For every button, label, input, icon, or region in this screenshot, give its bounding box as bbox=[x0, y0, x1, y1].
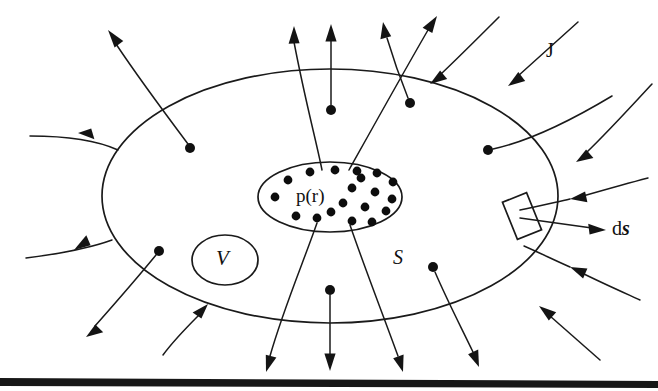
flux-line-out-10 bbox=[435, 272, 473, 352]
flux-source-dot-1 bbox=[185, 143, 195, 153]
flux-arrowhead-out-9 bbox=[324, 353, 335, 371]
flux-line-in-6 bbox=[583, 178, 648, 196]
flux-arrowhead-out-10 bbox=[468, 350, 479, 367]
flux-arrowhead-out-7 bbox=[380, 22, 391, 39]
flux-line-out-2 bbox=[349, 30, 428, 170]
surface-label: S bbox=[393, 247, 403, 267]
flux-arrowhead-out-6 bbox=[325, 24, 336, 42]
flux-line-out-8 bbox=[95, 255, 156, 326]
flux-line-out-1 bbox=[294, 42, 322, 170]
figure-container: J p(r) V S ds bbox=[0, 0, 658, 391]
surface-element-vector: s bbox=[622, 217, 630, 239]
flux-arrowhead-out-8 bbox=[86, 324, 103, 337]
flux-line-in-8 bbox=[550, 316, 600, 360]
flux-arrowhead-out-3 bbox=[266, 355, 277, 372]
flux-line-in-tail-1 bbox=[493, 96, 612, 149]
flux-line-group-interior-dots bbox=[86, 22, 612, 371]
flux-arrowhead-out-13 bbox=[193, 304, 208, 318]
flux-line-out-7 bbox=[387, 38, 408, 98]
flux-arrowhead-in-6 bbox=[570, 191, 587, 202]
flux-arrowhead-in-7 bbox=[570, 267, 587, 279]
flux-arrowhead-out-5 bbox=[108, 30, 123, 47]
flux-source-dot-7 bbox=[428, 262, 438, 272]
surface-element-group bbox=[502, 193, 606, 240]
flux-line-in-5 bbox=[586, 84, 652, 153]
flux-line-out-3 bbox=[270, 223, 317, 356]
flux-arrowhead-in-3 bbox=[508, 72, 525, 86]
ds-arrow-shaft bbox=[520, 218, 592, 228]
flux-arrowhead-out-11 bbox=[78, 129, 94, 140]
flux-diagram-svg bbox=[0, 0, 658, 391]
charge-density-label: p(r) bbox=[296, 186, 324, 205]
flux-line-out-4 bbox=[350, 225, 398, 356]
flux-source-dot-2 bbox=[326, 105, 336, 115]
flux-arrowhead-out-1 bbox=[289, 26, 300, 44]
ds-arrowhead bbox=[588, 224, 606, 235]
flux-source-dot-3 bbox=[405, 98, 415, 108]
surface-element-label: ds bbox=[612, 218, 630, 238]
flux-line-in-7 bbox=[582, 273, 640, 300]
volume-label: V bbox=[216, 248, 229, 269]
flux-source-dot-6 bbox=[325, 285, 335, 295]
flux-line-in-2 bbox=[441, 17, 499, 74]
flux-source-dot-4 bbox=[483, 145, 493, 155]
flux-arrowhead-in-5 bbox=[576, 150, 593, 162]
flux-line-out-13 bbox=[163, 315, 199, 355]
flux-arrowhead-in-2 bbox=[430, 70, 447, 84]
flux-arrowhead-out-4 bbox=[393, 355, 403, 372]
flux-arrowhead-out-2 bbox=[423, 16, 437, 33]
surface-element-patch bbox=[502, 193, 541, 240]
surface-element-prefix: d bbox=[612, 217, 622, 239]
flux-line-out-11 bbox=[30, 136, 118, 150]
charge-dot-cluster bbox=[271, 166, 398, 227]
current-density-label: J bbox=[546, 40, 554, 60]
flux-line-out-5 bbox=[116, 44, 188, 144]
flux-line-group-bottom-left-out bbox=[163, 304, 208, 355]
flux-line-group-left-out bbox=[26, 129, 118, 258]
scan-edge-bar bbox=[0, 378, 658, 388]
flux-line-in-6-tail bbox=[520, 199, 570, 210]
flux-line-out-12 bbox=[26, 240, 112, 258]
